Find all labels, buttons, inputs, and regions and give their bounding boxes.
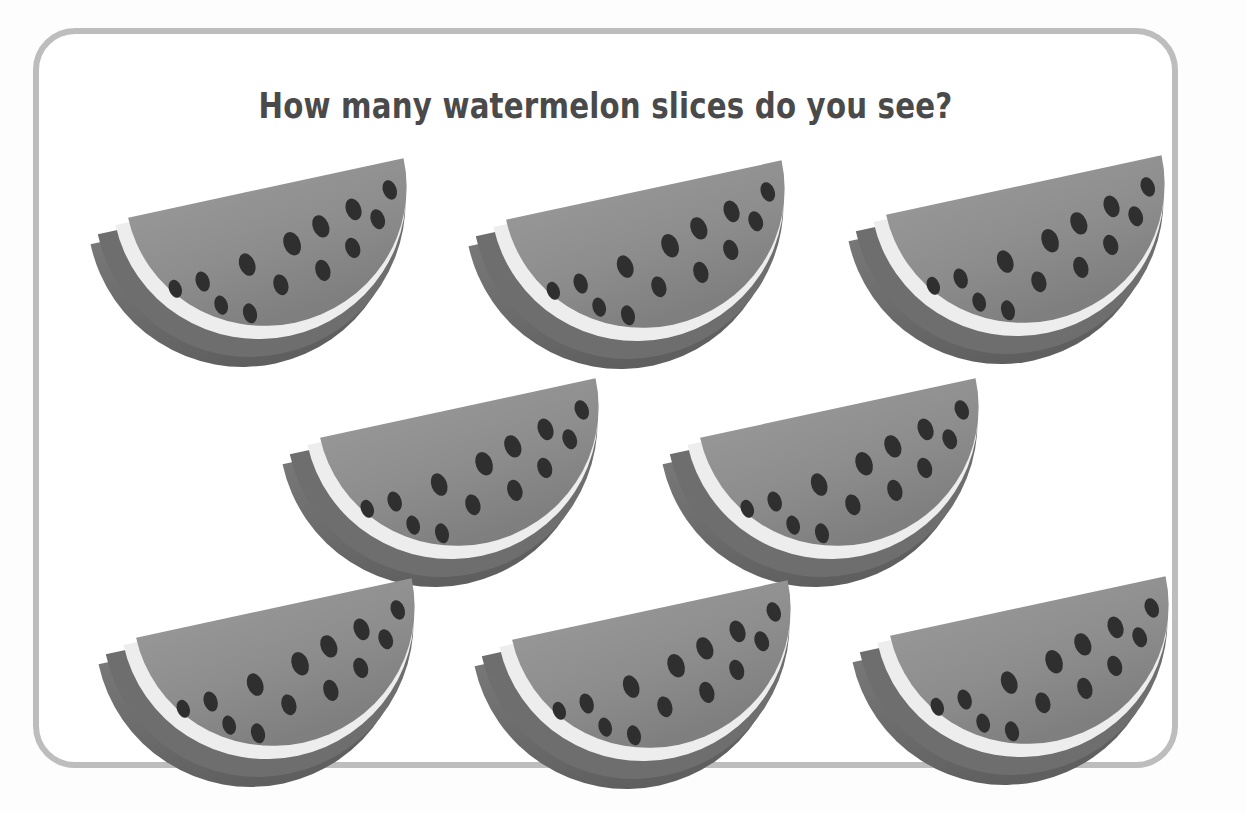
watermelon-slice <box>84 577 450 813</box>
worksheet-card: How many watermelon slices do you see? <box>33 28 1178 768</box>
watermelon-slice <box>76 157 442 398</box>
watermelon-slice <box>834 154 1200 395</box>
page-title: How many watermelon slices do you see? <box>79 86 1133 126</box>
watermelon-slice <box>460 579 826 813</box>
watermelon-slice <box>648 377 1014 618</box>
worksheet-canvas: How many watermelon slices do you see? <box>0 0 1246 813</box>
watermelon-slice <box>454 159 820 400</box>
watermelon-slice <box>268 377 634 618</box>
watermelon-slice <box>838 575 1204 813</box>
